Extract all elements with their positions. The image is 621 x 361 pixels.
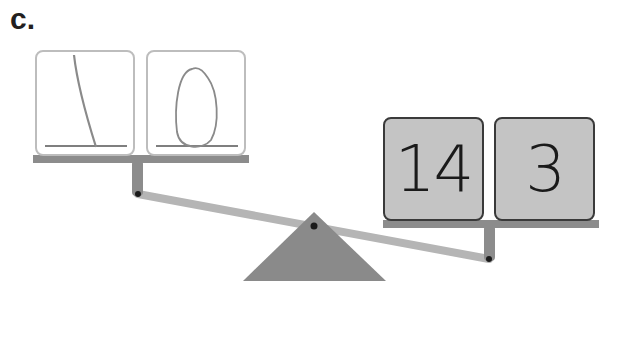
left-card-1: [35, 50, 135, 156]
fulcrum-triangle: [243, 212, 386, 281]
left-card-2: [146, 50, 246, 156]
number-card-value: 3: [525, 132, 564, 206]
right-post: [484, 225, 495, 261]
handwritten-digit-1: [37, 52, 133, 154]
right-pivot: [486, 256, 492, 262]
handwritten-digit-0: [148, 52, 244, 154]
fulcrum-pivot: [311, 223, 318, 230]
left-pivot: [135, 191, 141, 197]
right-card-1: 14: [383, 117, 484, 221]
number-card-value: 14: [395, 132, 472, 206]
right-card-2: 3: [494, 117, 595, 221]
left-post: [132, 160, 143, 196]
